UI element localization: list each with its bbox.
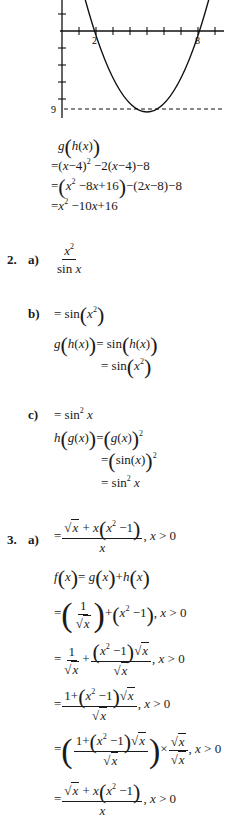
problem-3a-work-2: =(1√x)+(x2 −1), x > 0 [54,598,186,631]
problem-3-number: 3. [7,532,17,548]
problem-2-number: 2. [7,252,17,268]
problem-2b-label: b) [28,306,40,322]
problem-2b-work-2: = sin(x2) [101,358,151,375]
y-label-9: 9 [51,104,56,115]
problem-2c-work-3: = sin2 x [101,475,140,491]
problem-3a-answer: =√x + x(x2 −1)x, x > 0 [54,520,176,555]
problem-3a-work-1: f(x)= g(x)+h(x) [54,569,150,586]
problem-2a-label: a) [28,252,39,268]
problem-2c-label: c) [28,407,38,423]
expr-g-of-h: g(h(x)) [58,138,100,155]
problem-2b-work-1: g(h(x))= sin(h(x)) [54,336,158,353]
problem-2c-work-1: h(g(x))=(g(x))2 [54,430,143,447]
parabola-graph: 2 8 9 [0,0,234,125]
x-label-8: 8 [195,35,200,46]
problem-3a-work-3: =1√x+(x2 −1)√x√x, x > 0 [54,643,185,678]
problem-3a-work-5: =(1+(x2 −1)√x√x)×√x√x, x > 0 [54,733,221,768]
expr-step-1: =(x−4)2 −2(x−4)−8 [51,158,150,174]
problem-2c-answer: = sin2 x [54,407,93,423]
problem-2c-work-2: =(sin(x))2 [101,452,157,469]
problem-3a-work-4: =1+(x2 −1)√x√x, x > 0 [54,688,170,723]
problem-2a-answer: x2sin x [54,243,84,276]
problem-3a-label: a) [28,532,39,548]
parabola-curve [85,0,210,112]
x-label-2: 2 [92,35,97,46]
problem-2b-answer: = sin(x2) [54,306,104,323]
expr-step-2: =(x2 −8x+16)−(2x−8)−8 [51,178,182,195]
expr-step-3: =x2 −10x+16 [51,198,118,214]
problem-3a-work-6: =√x + x(x2 −1)x, x > 0 [54,783,176,818]
